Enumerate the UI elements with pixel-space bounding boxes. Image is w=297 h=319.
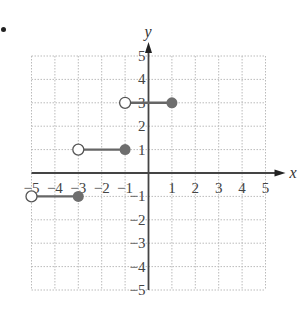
x-tick-label: 3: [215, 180, 223, 196]
open-dot-icon: [73, 144, 84, 155]
x-axis-label: x: [289, 164, 297, 181]
step-function-graph: xy −5−4−3−2−11234554321−1−2−3−4−5: [0, 0, 297, 319]
open-dot-icon: [26, 191, 37, 202]
x-tick-label: 4: [238, 180, 246, 196]
y-tick-label: 2: [138, 118, 146, 134]
y-tick-label: 4: [138, 71, 146, 87]
y-axis-label: y: [143, 23, 153, 41]
y-tick-label: −5: [130, 282, 146, 298]
x-tick-label: −2: [94, 180, 110, 196]
y-tick-label: 1: [138, 142, 146, 158]
open-dot-icon: [120, 97, 131, 108]
x-tick-label: 2: [192, 180, 200, 196]
x-axis-arrow-icon: [275, 170, 286, 177]
axes: xy: [32, 23, 297, 290]
y-tick-label: −1: [130, 188, 146, 204]
x-tick-label: 5: [262, 180, 270, 196]
x-tick-label: 1: [168, 180, 176, 196]
y-axis-arrow-icon: [145, 42, 152, 53]
y-tick-label: −2: [130, 212, 146, 228]
closed-dot-icon: [73, 191, 84, 202]
closed-dot-icon: [166, 97, 177, 108]
y-tick-label: 5: [138, 48, 146, 64]
y-tick-label: −4: [130, 259, 146, 275]
x-tick-label: −4: [47, 180, 63, 196]
y-tick-label: −3: [130, 235, 146, 251]
closed-dot-icon: [120, 144, 131, 155]
